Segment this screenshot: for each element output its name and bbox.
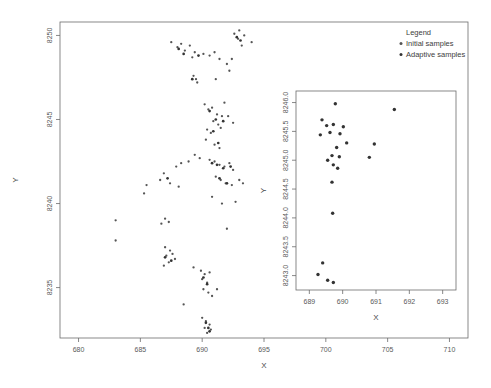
- data-point: [211, 196, 213, 198]
- data-point: [194, 154, 196, 156]
- data-point: [235, 36, 238, 39]
- data-point: [336, 167, 339, 170]
- data-point: [208, 271, 210, 273]
- svg-text:689: 689: [303, 298, 315, 305]
- data-point: [184, 49, 186, 51]
- data-point: [330, 154, 333, 157]
- data-point: [169, 249, 171, 251]
- data-point: [226, 228, 228, 230]
- data-point: [319, 133, 322, 136]
- data-point: [250, 41, 252, 43]
- data-point: [326, 159, 329, 162]
- data-point: [177, 48, 180, 51]
- svg-text:710: 710: [444, 346, 456, 353]
- data-point: [208, 159, 210, 161]
- svg-text:691: 691: [370, 298, 382, 305]
- data-point: [202, 53, 204, 55]
- data-point: [212, 120, 214, 122]
- svg-text:685: 685: [135, 346, 147, 353]
- svg-text:700: 700: [320, 346, 332, 353]
- data-point: [332, 281, 335, 284]
- data-point: [208, 330, 211, 333]
- data-point: [191, 56, 193, 58]
- data-point: [216, 113, 218, 115]
- data-point: [192, 266, 194, 268]
- data-point: [221, 115, 223, 117]
- data-point: [163, 265, 165, 267]
- svg-text:Y: Y: [259, 187, 268, 193]
- legend: LegendInitial samplesAdaptive samples: [400, 28, 466, 59]
- data-point: [218, 58, 220, 60]
- data-point: [114, 239, 116, 241]
- data-point: [373, 142, 376, 145]
- data-point: [207, 327, 210, 330]
- data-point: [178, 186, 180, 188]
- svg-text:Y: Y: [11, 177, 20, 183]
- scatter-plot-figure: 6806856906957007057108235824082458250XY6…: [0, 0, 491, 388]
- svg-text:680: 680: [73, 346, 85, 353]
- data-point: [393, 108, 396, 111]
- data-point: [217, 142, 220, 145]
- data-point: [212, 130, 215, 133]
- data-point: [321, 261, 324, 264]
- svg-text:8235: 8235: [46, 280, 53, 296]
- data-point: [232, 122, 234, 124]
- data-point: [238, 29, 240, 31]
- data-point: [222, 120, 225, 123]
- data-point: [164, 218, 166, 220]
- data-point: [195, 78, 197, 80]
- data-point: [226, 182, 229, 185]
- data-point: [169, 182, 171, 184]
- data-point: [163, 172, 165, 174]
- data-point: [160, 223, 162, 225]
- legend-title: Legend: [406, 28, 431, 37]
- data-point: [164, 246, 166, 248]
- legend-marker-adaptive-samples: [400, 53, 403, 56]
- svg-text:8240: 8240: [46, 196, 53, 212]
- legend-label-initial-samples: Initial samples: [406, 39, 454, 48]
- data-point: [114, 219, 116, 221]
- data-point: [168, 221, 170, 223]
- data-point: [210, 132, 212, 134]
- data-point: [218, 164, 220, 166]
- svg-text:692: 692: [403, 298, 415, 305]
- data-point: [338, 132, 341, 135]
- data-point: [238, 179, 240, 181]
- data-point: [211, 295, 213, 297]
- data-point: [338, 155, 341, 158]
- data-point: [211, 162, 214, 165]
- data-point: [320, 118, 323, 121]
- data-point: [206, 283, 209, 286]
- svg-text:695: 695: [258, 346, 270, 353]
- data-point: [215, 78, 217, 80]
- data-point: [232, 169, 234, 171]
- data-point: [213, 144, 215, 146]
- data-point: [208, 54, 210, 56]
- data-point: [325, 124, 328, 127]
- data-point: [145, 184, 147, 186]
- data-point: [220, 127, 222, 129]
- data-point: [231, 58, 233, 60]
- data-point: [204, 327, 206, 329]
- data-point: [180, 43, 182, 45]
- data-point: [199, 157, 201, 159]
- data-point: [211, 107, 213, 109]
- data-point: [182, 53, 185, 56]
- svg-text:8245.0: 8245.0: [282, 149, 289, 171]
- data-point: [217, 123, 219, 125]
- inset-panel: 6896906916926938243.08243.58244.08244.58…: [259, 90, 457, 322]
- data-point: [191, 78, 194, 81]
- data-point: [197, 54, 200, 57]
- data-point: [345, 141, 348, 144]
- data-point: [196, 81, 198, 83]
- data-point: [202, 276, 205, 279]
- data-point: [206, 332, 208, 334]
- svg-text:8243.5: 8243.5: [282, 236, 289, 258]
- data-point: [218, 147, 220, 149]
- data-point: [226, 63, 228, 65]
- data-point: [175, 165, 177, 167]
- data-point: [222, 167, 225, 170]
- svg-text:8250: 8250: [46, 28, 53, 44]
- svg-text:690: 690: [196, 346, 208, 353]
- data-point: [335, 146, 338, 149]
